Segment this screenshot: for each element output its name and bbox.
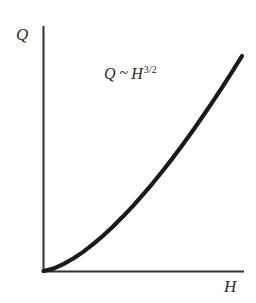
figure-container: Q H Q~H3/2: [0, 0, 256, 303]
annotation-relation-symbol: ~: [120, 64, 129, 81]
data-series-group: [44, 56, 243, 271]
axes-group: [43, 27, 243, 272]
power-law-curve: [44, 56, 243, 271]
annotation-variable: H: [131, 65, 143, 82]
y-axis-label: Q: [16, 26, 28, 43]
annotation-base: Q: [104, 65, 116, 82]
plot-canvas: [0, 0, 256, 303]
curve-annotation: Q~H3/2: [104, 66, 157, 82]
annotation-exponent: 3/2: [144, 64, 157, 75]
x-axis-label: H: [224, 278, 236, 295]
